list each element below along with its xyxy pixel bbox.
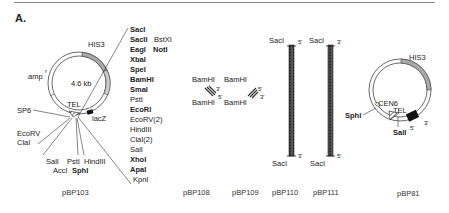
saci-site-bottom: SacI (272, 159, 287, 168)
mcs-site: XbaI (130, 55, 146, 64)
plasmid-diagram: HIS3 4.6 kb amp r TEL lacZ SP6 EcoRV Cla… (0, 0, 449, 213)
mcs-site: NotI (153, 45, 168, 54)
saci-site-bottom: SacI (310, 159, 325, 168)
bamhi-site-top: BamHI (192, 75, 215, 84)
mcs-site: SalI (130, 145, 143, 154)
plasmid-name: pBP109 (232, 188, 259, 197)
mcs-site: SmaI (130, 85, 148, 94)
saci-site-top: SacI (309, 36, 324, 45)
mcs-site: ApaI (130, 165, 146, 174)
lacz-label: lacZ (92, 114, 107, 123)
mcs-site: SacII (130, 35, 148, 44)
plasmid-name: pBP103 (62, 188, 89, 197)
telomere-repeat-bar (289, 45, 294, 156)
end-label: 3' (260, 94, 264, 100)
insert-pBP110: SacI 5' 3' SacI pBP110 (269, 36, 302, 197)
saci-site-top: SacI (269, 36, 284, 45)
telomere-repeat-icon (248, 88, 258, 98)
tel-label: TEL (393, 106, 407, 115)
plasmid-name: pBP81 (397, 189, 420, 198)
mcs-site: BstXI (154, 35, 172, 44)
his3-gene-arc (82, 52, 107, 71)
mcs-site: EagI (130, 45, 146, 54)
end-label: 3' (298, 153, 302, 159)
end-label: 3' (216, 86, 220, 92)
plasmid-name: pBP110 (272, 188, 298, 197)
plasmid-pBP103: HIS3 4.6 kb amp r TEL lacZ SP6 EcoRV Cla… (17, 25, 172, 197)
his3-gene-arc (401, 59, 431, 90)
mcs-site: KpnI (133, 175, 148, 184)
amp-superscript: r (45, 68, 47, 74)
clai-site: ClaI (17, 138, 30, 147)
mcs-site: HindIII (130, 125, 152, 134)
sphi-site: SphI (72, 166, 88, 175)
tel-label: TEL (67, 100, 81, 109)
mcs-site: PstI (130, 95, 143, 104)
his3-label: HIS3 (409, 53, 426, 62)
mcs-site: XhoI (130, 155, 146, 164)
plasmid-pBP81: HIS3 CEN6 TEL SphI SalI 5' 3' pBP81 (345, 53, 431, 198)
mcs-site: SacI (130, 25, 145, 34)
acci-site: AccI (53, 166, 68, 175)
his3-label: HIS3 (88, 40, 105, 49)
end-label: 5' (337, 153, 341, 159)
ecorv-site: EcoRV (17, 129, 40, 138)
sali-site: SalI (46, 157, 59, 166)
mcs-site: SpeI (130, 65, 146, 74)
bamhi-site-bottom: BamHI (224, 98, 247, 107)
mcs-site-list: SacI SacII BstXI EagI NotI XbaI SpeI Bam… (130, 25, 172, 184)
sp6-label: SP6 (17, 106, 31, 115)
insert-pBP109: BamHI 5' 3' BamHI pBP109 (224, 75, 264, 197)
mcs-site: BamHI (130, 75, 154, 84)
bamhi-site-top: BamHI (224, 75, 247, 84)
plasmid-name: pBP111 (313, 188, 339, 197)
mcs-site: EcoRV(2) (130, 115, 163, 124)
hindiii-site: HindIII (84, 157, 106, 166)
mcs-site: ClaI(2) (130, 135, 153, 144)
telomere-repeat-icon (205, 86, 216, 96)
size-label: 4.6 kb (71, 79, 91, 88)
plasmid-name: pBP108 (183, 188, 210, 197)
mcs-site: EcoRI (130, 105, 151, 114)
end-label: 5' (410, 125, 414, 131)
sali-site: SalI (393, 128, 406, 137)
end-label: 3' (424, 120, 428, 126)
telomere-repeat-bar (328, 45, 333, 156)
bamhi-site-bottom: BamHI (192, 98, 215, 107)
end-label: 5' (218, 94, 222, 100)
end-label: 5' (258, 86, 262, 92)
sphi-site: SphI (345, 111, 361, 120)
psti-site: PstI (67, 157, 80, 166)
end-label: 3' (337, 39, 341, 45)
insert-pBP111: SacI 3' 5' SacI pBP111 (309, 36, 341, 197)
end-label: 5' (298, 39, 302, 45)
insert-pBP108: BamHI 3' 5' BamHI pBP108 (183, 75, 222, 197)
amp-label: amp (28, 72, 43, 81)
